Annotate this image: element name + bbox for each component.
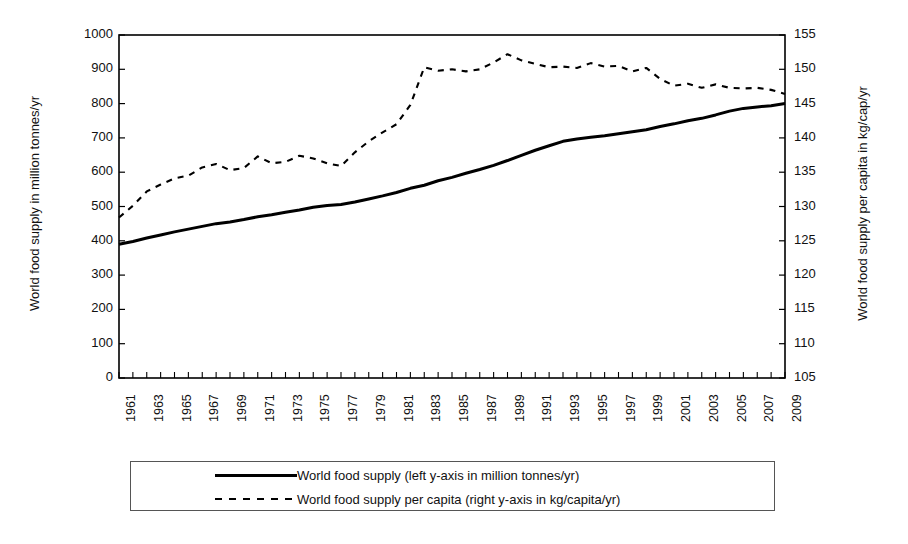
- x-tick-2005: 2005: [735, 394, 749, 422]
- left-y-tick-900: 900: [61, 60, 113, 75]
- right-y-tick-155: 155: [794, 26, 846, 41]
- left-y-tick-200: 200: [61, 300, 113, 315]
- x-tick-1967: 1967: [207, 394, 221, 422]
- left-y-tick-400: 400: [61, 232, 113, 247]
- legend-item-food-supply: World food supply (left y-axis in millio…: [131, 463, 774, 487]
- x-tick-1997: 1997: [624, 394, 638, 422]
- x-tick-2009: 2009: [790, 394, 804, 422]
- x-tick-1999: 1999: [651, 394, 665, 422]
- left-y-tick-300: 300: [61, 266, 113, 281]
- x-tick-1981: 1981: [402, 394, 416, 422]
- right-y-axis-title: World food supply per capita in kg/cap/y…: [855, 39, 870, 369]
- plot-frame: [119, 35, 785, 378]
- x-tick-1977: 1977: [346, 394, 360, 422]
- x-tick-1963: 1963: [152, 394, 166, 422]
- left-y-tick-700: 700: [61, 129, 113, 144]
- x-tick-1969: 1969: [235, 394, 249, 422]
- x-tick-1975: 1975: [318, 394, 332, 422]
- right-y-tick-125: 125: [794, 232, 846, 247]
- x-tick-2003: 2003: [707, 394, 721, 422]
- x-tick-1979: 1979: [374, 394, 388, 422]
- right-y-tick-120: 120: [794, 266, 846, 281]
- x-tick-1995: 1995: [596, 394, 610, 422]
- chart-figure: World food supply in million tonnes/yr W…: [0, 0, 908, 544]
- left-y-tick-600: 600: [61, 163, 113, 178]
- x-tick-1983: 1983: [429, 394, 443, 422]
- x-tick-1991: 1991: [540, 394, 554, 422]
- right-y-tick-140: 140: [794, 129, 846, 144]
- right-y-tick-150: 150: [794, 60, 846, 75]
- legend-label-food-supply-per-capita: World food supply per capita (right y-ax…: [297, 492, 620, 507]
- legend-line-sample-solid: [215, 469, 297, 481]
- x-tick-1965: 1965: [180, 394, 194, 422]
- legend-line-sample-dashed: [215, 493, 297, 505]
- left-y-tick-800: 800: [61, 95, 113, 110]
- x-tick-1993: 1993: [568, 394, 582, 422]
- legend-item-food-supply-per-capita: World food supply per capita (right y-ax…: [131, 487, 774, 511]
- right-y-tick-110: 110: [794, 335, 846, 350]
- chart-legend: World food supply (left y-axis in millio…: [130, 461, 775, 511]
- x-tick-1973: 1973: [291, 394, 305, 422]
- legend-label-food-supply: World food supply (left y-axis in millio…: [297, 468, 579, 483]
- x-tick-1971: 1971: [263, 394, 277, 422]
- right-y-tick-115: 115: [794, 300, 846, 315]
- right-y-tick-130: 130: [794, 198, 846, 213]
- x-tick-1961: 1961: [124, 394, 138, 422]
- left-y-tick-100: 100: [61, 335, 113, 350]
- left-y-tick-1000: 1000: [61, 26, 113, 41]
- right-y-tick-145: 145: [794, 95, 846, 110]
- left-y-axis-title: World food supply in million tonnes/yr: [27, 39, 42, 369]
- x-tick-1985: 1985: [457, 394, 471, 422]
- left-y-tick-0: 0: [61, 369, 113, 384]
- x-tick-1989: 1989: [513, 394, 527, 422]
- right-y-tick-135: 135: [794, 163, 846, 178]
- left-y-tick-500: 500: [61, 198, 113, 213]
- right-y-tick-105: 105: [794, 369, 846, 384]
- x-tick-2007: 2007: [762, 394, 776, 422]
- x-tick-1987: 1987: [485, 394, 499, 422]
- x-tick-2001: 2001: [679, 394, 693, 422]
